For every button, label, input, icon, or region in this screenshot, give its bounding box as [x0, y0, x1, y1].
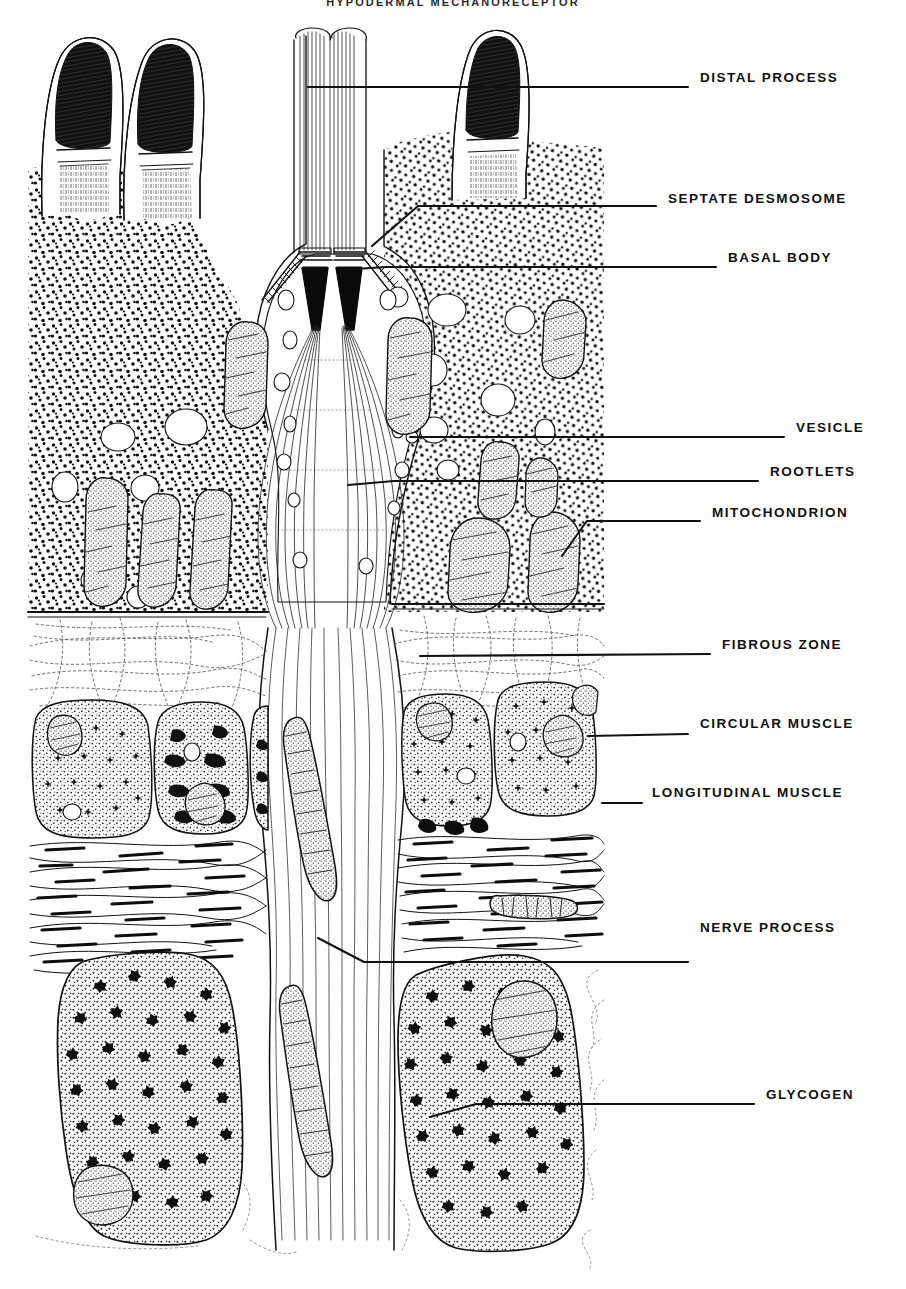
label-distal-process: DISTAL PROCESS [700, 71, 838, 85]
region-distal-processes [42, 30, 529, 220]
circular-muscle-cell [402, 694, 492, 835]
mitochondrion [448, 518, 510, 612]
leader-fibrous-zone [420, 654, 710, 656]
label-fibrous-zone: FIBROUS ZONE [722, 638, 842, 652]
leader-circular-muscle [588, 734, 688, 736]
circular-muscle-cell [250, 706, 268, 830]
mitochondrion [224, 322, 268, 429]
distal-process-5 [452, 30, 529, 200]
mitochondrion [386, 318, 432, 435]
mitochondrion [542, 300, 586, 378]
mitochondrion [84, 478, 128, 607]
distal-process-2 [124, 39, 204, 220]
label-basal-body: BASAL BODY [728, 251, 832, 265]
circular-muscle-cell [154, 702, 248, 834]
nerve-mitochondrion-lower [279, 985, 332, 1176]
label-circular-muscle: CIRCULAR MUSCLE [700, 717, 854, 731]
label-septate-desmosome: SEPTATE DESMOSOME [668, 192, 847, 206]
label-nerve-process: NERVE PROCESS [700, 921, 836, 935]
label-glycogen: GLYCOGEN [766, 1088, 854, 1102]
label-rootlets: ROOTLETS [770, 465, 856, 479]
mitochondrion [528, 512, 580, 612]
label-mitochondrion: MITOCHONDRION [712, 506, 848, 520]
mitochondrion [190, 490, 232, 609]
mitochondrion [138, 494, 180, 607]
mitochondrion [525, 458, 558, 517]
figure-page: HYPODERMAL MECHANORECEPTOR [0, 0, 906, 1289]
glycogen-cell [57, 952, 242, 1245]
label-longitudinal-muscle: LONGITUDINAL MUSCLE [652, 786, 843, 800]
label-vesicle: VESICLE [796, 421, 864, 435]
mitochondrion [490, 895, 577, 919]
distal-process-1 [42, 38, 123, 216]
nerve-mitochondrion-upper [283, 717, 336, 900]
circular-muscle-cell [494, 682, 598, 816]
circular-muscle-cell [32, 700, 152, 838]
